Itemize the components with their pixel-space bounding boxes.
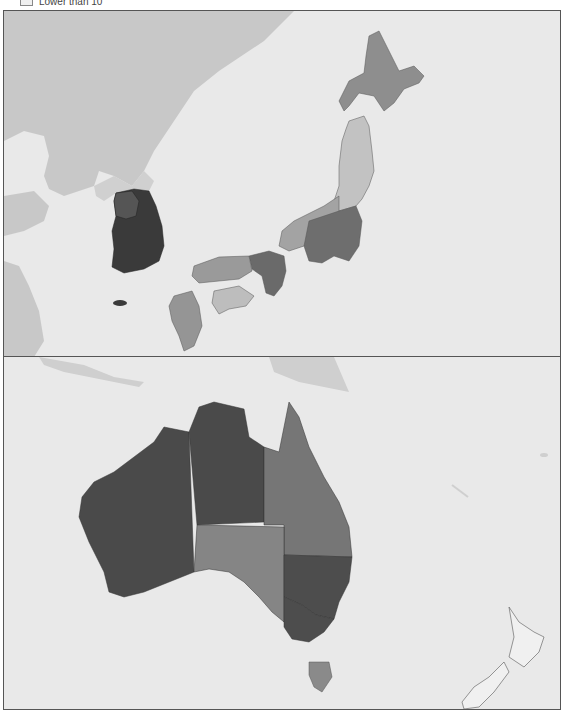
east-asia-map [4,11,560,357]
map-legend: Lower than 10 [20,0,102,7]
legend-swatch-lower-than-10 [20,0,33,6]
map-panel-oceania[interactable] [3,356,561,710]
map-panel-east-asia[interactable] [3,10,561,358]
jeju-island [113,300,127,306]
oceania-map [4,357,560,709]
legend-label: Lower than 10 [39,0,102,7]
pacific-island [540,453,548,457]
